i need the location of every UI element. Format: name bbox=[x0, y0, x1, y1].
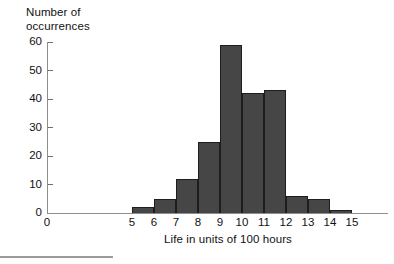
y-tick-label-40: 40 bbox=[20, 92, 42, 104]
y-tick-label-60: 60 bbox=[20, 35, 42, 47]
x-tick-label-5: 5 bbox=[122, 216, 142, 228]
x-tick-label-14: 14 bbox=[320, 216, 340, 228]
y-tick-label-30: 30 bbox=[20, 121, 42, 133]
x-tick-label-7: 7 bbox=[166, 216, 186, 228]
x-tick-label-15: 15 bbox=[342, 216, 362, 228]
histogram-bar bbox=[264, 90, 286, 213]
histogram-bar bbox=[330, 210, 352, 213]
x-tick-label-12: 12 bbox=[276, 216, 296, 228]
histogram-bar bbox=[242, 93, 264, 213]
x-tick-label-8: 8 bbox=[188, 216, 208, 228]
y-tick-label-10: 10 bbox=[20, 178, 42, 190]
histogram-bar bbox=[132, 207, 154, 213]
y-tick-60 bbox=[48, 42, 53, 43]
histogram-bar bbox=[308, 199, 330, 213]
y-tick-40 bbox=[48, 99, 53, 100]
histogram-bar bbox=[198, 142, 220, 213]
x-tick-label-13: 13 bbox=[298, 216, 318, 228]
y-axis-title-line-2: occurrences bbox=[26, 20, 90, 34]
histogram-figure: Number of occurrences 0102030405060 0 56… bbox=[0, 0, 394, 264]
y-axis-title-line-1: Number of bbox=[26, 6, 90, 20]
histogram-bar bbox=[154, 199, 176, 213]
x-tick-label-11: 11 bbox=[254, 216, 274, 228]
x-axis-title-text: Life in units of 100 hours bbox=[164, 233, 292, 245]
histogram-bar bbox=[286, 196, 308, 213]
y-tick-10 bbox=[48, 184, 53, 185]
y-tick-20 bbox=[48, 156, 53, 157]
histogram-bar bbox=[220, 45, 242, 213]
x-tick-label-6: 6 bbox=[144, 216, 164, 228]
y-tick-50 bbox=[48, 70, 53, 71]
x-tick-label-10: 10 bbox=[232, 216, 252, 228]
histogram-bar bbox=[176, 179, 198, 213]
y-tick-30 bbox=[48, 127, 53, 128]
y-tick-label-50: 50 bbox=[20, 64, 42, 76]
x-axis-origin-label: 0 bbox=[37, 216, 57, 228]
x-axis-title: Life in units of 100 hours bbox=[0, 233, 394, 245]
footer-divider bbox=[0, 256, 113, 258]
y-tick-label-20: 20 bbox=[20, 149, 42, 161]
x-tick-label-9: 9 bbox=[210, 216, 230, 228]
y-axis-title: Number of occurrences bbox=[26, 6, 90, 33]
